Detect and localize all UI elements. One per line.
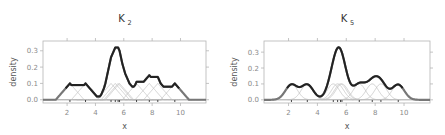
- x-tick-label: 10: [176, 109, 185, 117]
- chart-panel-k5: K52468100.00.10.20.3xdensity: [230, 13, 433, 131]
- kernel-curve: [43, 83, 128, 99]
- y-tick-label: 0.2: [248, 65, 259, 73]
- density-curve: [287, 47, 402, 96]
- x-tick-label: 10: [400, 109, 409, 117]
- x-tick-label: 6: [122, 109, 127, 117]
- x-axis-label: x: [345, 122, 350, 131]
- x-tick-label: 8: [373, 109, 377, 117]
- x-tick-label: 8: [150, 109, 154, 117]
- x-axis-label: x: [122, 122, 127, 131]
- y-tick-label: 0.1: [27, 80, 38, 88]
- x-tick-label: 4: [315, 109, 320, 117]
- panel-title-subscript: 5: [350, 19, 354, 27]
- y-axis-label: density: [230, 57, 239, 87]
- plot-area: [264, 47, 430, 99]
- y-axis-label: density: [9, 57, 18, 87]
- figure-canvas: K22468100.00.10.20.3xdensityK52468100.00…: [0, 0, 445, 135]
- y-tick-label: 0.3: [27, 47, 38, 55]
- y-tick-label: 0.1: [248, 80, 259, 88]
- y-tick-label: 0.0: [248, 96, 259, 104]
- x-tick-label: 4: [93, 109, 98, 117]
- panel-title-subscript: 2: [128, 19, 132, 27]
- y-tick-label: 0.0: [27, 96, 38, 104]
- panel-title: K: [118, 13, 125, 24]
- kernel-curve: [77, 83, 162, 99]
- chart-panel-k2: K22468100.00.10.20.3xdensity: [9, 13, 209, 131]
- x-tick-label: 2: [65, 109, 69, 117]
- y-tick-label: 0.2: [27, 64, 38, 72]
- x-tick-label: 2: [286, 109, 290, 117]
- kernel-curve: [73, 83, 158, 99]
- kernel-curve: [272, 84, 311, 100]
- chart-figure: K22468100.00.10.20.3xdensityK52468100.00…: [0, 0, 445, 135]
- plot-area: [43, 48, 206, 100]
- x-tick-label: 6: [344, 109, 349, 117]
- density-curve: [66, 48, 179, 97]
- panel-title: K: [341, 13, 348, 24]
- y-tick-label: 0.3: [248, 49, 259, 57]
